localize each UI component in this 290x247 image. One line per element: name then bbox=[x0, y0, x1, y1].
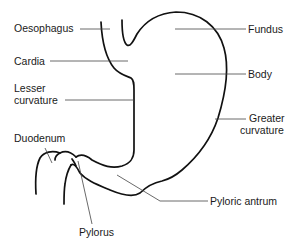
label-body: Body bbox=[248, 68, 272, 81]
pyloric-antrum-leader bbox=[117, 175, 208, 201]
label-pylorus: Pylorus bbox=[79, 226, 114, 239]
label-lesser-curvature-line2: curvature bbox=[14, 94, 58, 107]
greater-curvature-outline bbox=[71, 12, 226, 195]
duodenum-leader bbox=[45, 148, 52, 163]
duodenum-inner-outline bbox=[64, 165, 71, 204]
label-pyloric-antrum: Pyloric antrum bbox=[210, 195, 277, 208]
label-greater-curvature-line2: curvature bbox=[240, 124, 284, 137]
label-duodenum: Duodenum bbox=[14, 132, 65, 145]
label-fundus: Fundus bbox=[248, 23, 283, 36]
pylorus-leader bbox=[78, 161, 92, 224]
duodenum-outer-outline bbox=[36, 152, 60, 194]
label-oesophagus: Oesophagus bbox=[14, 22, 74, 35]
label-cardia: Cardia bbox=[14, 55, 45, 68]
